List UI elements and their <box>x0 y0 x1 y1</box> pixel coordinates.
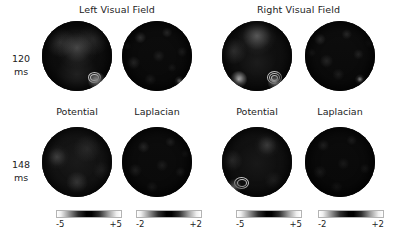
row-time-label-120: 120 ms <box>2 52 40 78</box>
topomap-field <box>42 21 112 91</box>
row-time-unit: ms <box>2 65 40 78</box>
field-title-right: Right Visual Field <box>222 4 375 15</box>
colorbar-min-label: -5 <box>236 219 244 229</box>
colorbar-max-label: +5 <box>109 219 122 229</box>
topomap-field <box>122 127 192 197</box>
measure-label-potential-right: Potential <box>222 106 292 117</box>
colorbar-max-label: +5 <box>289 219 302 229</box>
figure-root: Left Visual Field Right Visual Field 120… <box>0 0 400 238</box>
row-time-value: 148 <box>2 158 40 171</box>
topomap-field <box>222 21 292 91</box>
colorbar-potential-right: -5 +5 <box>236 210 302 232</box>
colorbar-laplacian-right: -2 +2 <box>318 210 384 232</box>
colorbar-gradient <box>136 210 202 218</box>
field-title-left: Left Visual Field <box>42 4 192 15</box>
topomap-field <box>122 21 192 91</box>
topomap-field <box>222 127 292 197</box>
colorbar-max-label: +2 <box>371 219 384 229</box>
topomap-148ms-left-laplacian <box>122 127 192 197</box>
topomap-120ms-right-laplacian <box>305 21 375 91</box>
topomap-field <box>42 127 112 197</box>
colorbar-min-label: -2 <box>136 219 144 229</box>
topomap-148ms-left-potential <box>42 127 112 197</box>
colorbar-laplacian-left: -2 +2 <box>136 210 202 232</box>
colorbar-gradient <box>56 210 122 218</box>
measure-label-laplacian-left: Laplacian <box>122 106 192 117</box>
colorbar-gradient <box>236 210 302 218</box>
colorbar-min-label: -2 <box>318 219 326 229</box>
topomap-120ms-left-laplacian <box>122 21 192 91</box>
topomap-field <box>305 127 375 197</box>
topomap-field <box>305 21 375 91</box>
row-time-value: 120 <box>2 52 40 65</box>
colorbar-min-label: -5 <box>56 219 64 229</box>
colorbar-gradient <box>318 210 384 218</box>
measure-label-potential-left: Potential <box>42 106 112 117</box>
colorbar-max-label: +2 <box>189 219 202 229</box>
row-time-label-148: 148 ms <box>2 158 40 184</box>
topomap-148ms-right-laplacian <box>305 127 375 197</box>
measure-label-laplacian-right: Laplacian <box>305 106 375 117</box>
colorbar-potential-left: -5 +5 <box>56 210 122 232</box>
row-time-unit: ms <box>2 171 40 184</box>
topomap-120ms-right-potential <box>222 21 292 91</box>
topomap-148ms-right-potential <box>222 127 292 197</box>
topomap-120ms-left-potential <box>42 21 112 91</box>
